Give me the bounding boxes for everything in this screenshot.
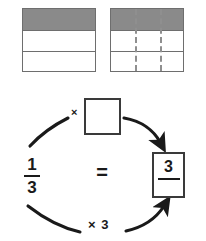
left-fraction-denominator: 3 [27, 178, 36, 196]
left-fraction-bar [24, 175, 40, 177]
left-fraction: 1 3 [22, 156, 42, 196]
bar-model-thirds [22, 8, 96, 72]
bar-model-ninths-row-3 [111, 52, 183, 71]
equals-sign: = [93, 162, 111, 182]
bar-model-ninths-row-2 [111, 31, 183, 52]
arrow-bottom-right-to-answer [126, 206, 164, 231]
bar-model-ninths [110, 8, 184, 72]
multiplier-input-box[interactable] [84, 98, 121, 135]
bar-model-thirds-row-3 [23, 52, 95, 71]
top-multiply-operator: × [71, 107, 77, 118]
arrow-bottom-left-tail [28, 206, 80, 232]
arrow-top-left-tail [30, 118, 68, 146]
answer-fraction-bar [158, 178, 180, 180]
diagram-canvas: × 1 3 = 3 × 3 [0, 0, 206, 241]
left-fraction-numerator: 1 [27, 156, 36, 174]
bar-model-thirds-row-2 [23, 31, 95, 52]
bar-model-thirds-row-1-shaded [23, 9, 95, 31]
arrow-top-right-to-answer [124, 118, 160, 142]
bar-model-ninths-row-1-shaded [111, 9, 183, 31]
bar-model-ninths-dashed-divider-2 [160, 9, 162, 71]
bar-model-ninths-dashed-divider-1 [135, 9, 137, 71]
bottom-multiply-operator: × 3 [88, 218, 109, 231]
answer-fraction-numerator: 3 [164, 159, 173, 175]
answer-fraction-box[interactable]: 3 [152, 152, 185, 198]
